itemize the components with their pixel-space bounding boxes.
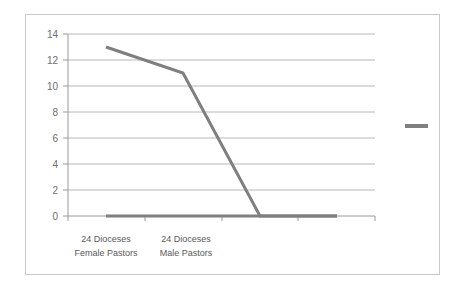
category-label-2-line1: 24 Dioceses [161,234,211,244]
y-tick-label-2: 2 [52,185,58,196]
category-label-2-line2: Male Pastors [160,248,213,258]
y-tick-label-4: 4 [52,159,58,170]
category-label-1-line2: Female Pastors [74,248,138,258]
series-line-1 [106,47,337,216]
y-tick-label-6: 6 [52,133,58,144]
y-axis-tick-labels: 14 12 10 8 6 4 2 0 [47,29,59,222]
category-label-1-line1: 24 Dioceses [81,234,131,244]
x-axis-category-labels: 24 Dioceses Female Pastors 24 Dioceses M… [74,234,212,258]
line-chart: 14 12 10 8 6 4 2 0 24 Dioceses Female Pa… [0,0,465,296]
y-tick-label-8: 8 [52,107,58,118]
y-axis-tickmarks [63,34,68,216]
gridlines [68,34,375,190]
y-tick-label-10: 10 [47,81,59,92]
y-tick-label-0: 0 [52,211,58,222]
chart-svg: 14 12 10 8 6 4 2 0 24 Dioceses Female Pa… [0,0,465,296]
y-tick-label-12: 12 [47,55,59,66]
y-tick-label-14: 14 [47,29,59,40]
